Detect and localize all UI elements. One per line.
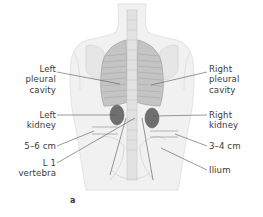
label-right-kidney: Right kidney xyxy=(209,110,263,131)
label-left-pleural-cavity: Left pleural cavity xyxy=(6,64,56,95)
label-ilium: Ilium xyxy=(209,165,263,175)
anatomy-figure: Left pleural cavity Left kidney 5–6 cm L… xyxy=(0,0,263,217)
spine xyxy=(127,10,137,180)
torso-illustration xyxy=(0,0,263,217)
label-right-distance: 3–4 cm xyxy=(209,141,263,151)
label-l1-vertebra: L 1 vertebra xyxy=(6,158,56,179)
label-left-kidney: Left kidney xyxy=(6,110,56,131)
label-left-distance: 5–6 cm xyxy=(6,141,56,151)
label-right-pleural-cavity: Right pleural cavity xyxy=(209,64,263,95)
panel-letter: a xyxy=(70,196,75,205)
